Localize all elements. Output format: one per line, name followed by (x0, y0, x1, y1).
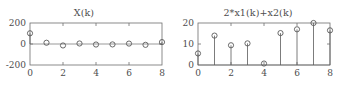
x-tick-label: 8 (159, 68, 165, 78)
axis-frame (198, 23, 330, 65)
data-point-marker (93, 42, 98, 47)
x-tick-label: 0 (27, 68, 33, 78)
x-tick-label: 4 (93, 68, 99, 78)
plot-area-right: 0246801020 (172, 0, 344, 90)
y-tick-label: 0 (20, 39, 26, 49)
y-tick-label: 10 (183, 39, 195, 49)
chart-panel-right: 2*x1(k)+x2(k) 0246801020 (172, 0, 344, 90)
y-tick-label: 20 (183, 18, 195, 28)
x-tick-label: 0 (195, 68, 201, 78)
plot-area-left: 02468-2000200 (0, 0, 172, 90)
y-tick-label: 200 (9, 18, 26, 28)
data-point-marker (143, 42, 148, 47)
data-point-marker (44, 40, 49, 45)
data-point-marker (77, 41, 82, 46)
x-tick-label: 2 (60, 68, 66, 78)
y-tick-label: -200 (6, 60, 26, 70)
data-point-marker (110, 42, 115, 47)
x-tick-label: 6 (126, 68, 132, 78)
y-tick-label: 0 (188, 60, 194, 70)
x-tick-label: 4 (261, 68, 267, 78)
chart-panel-left: X(k) 02468-2000200 (0, 0, 172, 90)
x-tick-label: 2 (228, 68, 234, 78)
figure-canvas: X(k) 02468-2000200 2*x1(k)+x2(k) 0246801… (0, 0, 344, 90)
x-tick-label: 6 (294, 68, 300, 78)
data-point-marker (126, 41, 131, 46)
x-tick-label: 8 (327, 68, 333, 78)
